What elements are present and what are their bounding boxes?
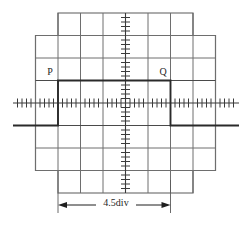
oscilloscope-graticule-svg: P Q 4.5div <box>0 0 252 228</box>
dimension-value-label: 4.5div <box>103 197 128 208</box>
oscilloscope-figure: P Q 4.5div <box>0 0 252 228</box>
point-label-q: Q <box>159 66 167 77</box>
pulse-width-dimension: 4.5div <box>58 180 171 213</box>
point-label-p: P <box>47 66 53 77</box>
dim-arrow-left <box>58 202 67 208</box>
dim-arrow-right <box>162 202 171 208</box>
